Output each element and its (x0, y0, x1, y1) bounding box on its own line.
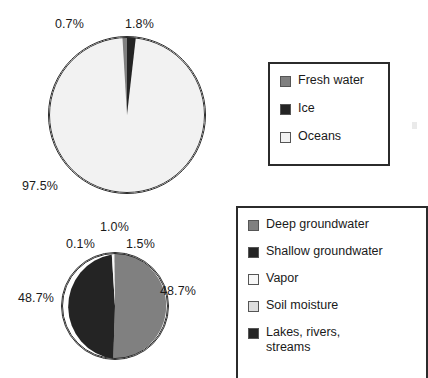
legend-label-oceans: Oceans (298, 129, 341, 144)
scan-speck (412, 122, 417, 129)
legend-item-oceans[interactable]: Oceans (280, 129, 380, 144)
legend-item-deep-groundwater[interactable]: Deep groundwater (248, 217, 418, 232)
swatch-vapor-icon (248, 274, 259, 285)
legend-global-water: Fresh water Ice Oceans (268, 62, 390, 166)
legend-label-ice: Ice (298, 101, 315, 116)
swatch-ice-icon (280, 104, 291, 115)
pie-label-vapor-pct: 1.0% (100, 221, 129, 234)
pie-label-ice-pct: 1.8% (125, 18, 154, 31)
pie-label-oceans-pct: 97.5% (22, 180, 58, 193)
legend-item-lakes-rivers-streams[interactable]: Lakes, rivers, streams (248, 325, 418, 355)
legend-item-ice[interactable]: Ice (280, 101, 380, 116)
pie-graphic-global-water (48, 36, 206, 194)
pie-label-fresh-water-pct: 0.7% (55, 18, 84, 31)
pie-svg-global-water (49, 37, 205, 193)
pie-graphic-fresh-water (61, 252, 169, 360)
legend-item-fresh-water[interactable]: Fresh water (280, 73, 380, 88)
pie-label-soil-moisture-pct: 1.5% (126, 238, 155, 251)
pie-label-shallow-groundwater-pct: 48.7% (18, 292, 54, 305)
pie-label-lakes-rivers-streams-pct: 0.1% (66, 238, 95, 251)
figure-canvas: 0.7% 1.8% 97.5% Fresh water Ice Oceans (0, 0, 428, 378)
legend-item-shallow-groundwater[interactable]: Shallow groundwater (248, 244, 418, 259)
swatch-lakes-rivers-streams-icon (248, 328, 259, 339)
swatch-deep-groundwater-icon (248, 220, 259, 231)
pie-slice-deep-groundwater (113, 253, 166, 359)
legend-label-vapor: Vapor (266, 271, 298, 286)
legend-item-vapor[interactable]: Vapor (248, 271, 418, 286)
legend-label-lakes-rivers-streams: Lakes, rivers, streams (266, 325, 340, 355)
pie-label-deep-groundwater-pct: 48.7% (160, 285, 196, 298)
swatch-shallow-groundwater-icon (248, 247, 259, 258)
legend-item-soil-moisture[interactable]: Soil moisture (248, 298, 418, 313)
legend-fresh-water: Deep groundwater Shallow groundwater Vap… (236, 206, 428, 378)
pie-svg-fresh-water (62, 253, 168, 359)
pie-slice-shallow-groundwater (68, 254, 115, 359)
swatch-soil-moisture-icon (248, 301, 259, 312)
legend-label-fresh-water: Fresh water (298, 73, 364, 88)
legend-label-shallow-groundwater: Shallow groundwater (266, 244, 383, 259)
swatch-oceans-icon (280, 132, 291, 143)
swatch-fresh-water-icon (280, 76, 291, 87)
legend-label-deep-groundwater: Deep groundwater (266, 217, 369, 232)
legend-label-soil-moisture: Soil moisture (266, 298, 338, 313)
